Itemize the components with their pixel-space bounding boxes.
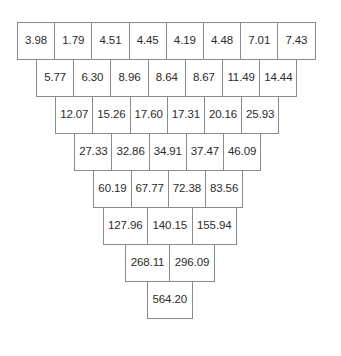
pyramid-cell: 127.96 <box>103 207 149 245</box>
pyramid-row: 3.981.794.514.454.194.487.017.43 <box>17 22 316 60</box>
pyramid-cell: 268.11 <box>125 244 171 282</box>
pyramid-cell: 4.48 <box>203 22 241 60</box>
pyramid-cell: 140.15 <box>147 207 193 245</box>
summation-pyramid: 3.981.794.514.454.194.487.017.435.776.30… <box>0 0 341 356</box>
pyramid-cell: 25.93 <box>241 96 279 134</box>
pyramid-cell: 46.09 <box>223 133 261 171</box>
pyramid-cell: 11.49 <box>222 59 260 97</box>
pyramid-cell: 17.31 <box>167 96 205 134</box>
pyramid-cell: 8.64 <box>148 59 186 97</box>
pyramid-cell: 8.96 <box>110 59 148 97</box>
pyramid-cell: 8.67 <box>185 59 223 97</box>
pyramid-row: 27.3332.8634.9137.4746.09 <box>74 133 261 171</box>
pyramid-row: 564.20 <box>147 281 193 319</box>
pyramid-cell: 72.38 <box>168 170 206 208</box>
pyramid-cell: 6.30 <box>73 59 111 97</box>
pyramid-cell: 3.98 <box>17 22 55 60</box>
pyramid-row: 5.776.308.968.648.6711.4914.44 <box>36 59 297 97</box>
pyramid-cell: 5.77 <box>36 59 74 97</box>
pyramid-cell: 32.86 <box>111 133 149 171</box>
pyramid-cell: 4.51 <box>91 22 129 60</box>
pyramid-cell: 37.47 <box>186 133 224 171</box>
pyramid-row: 60.1967.7772.3883.56 <box>93 170 243 208</box>
pyramid-cell: 14.44 <box>259 59 297 97</box>
pyramid-row: 268.11296.09 <box>125 244 215 282</box>
pyramid-cell: 155.94 <box>192 207 238 245</box>
pyramid-cell: 7.43 <box>277 22 315 60</box>
pyramid-cell: 60.19 <box>93 170 131 208</box>
pyramid-cell: 83.56 <box>205 170 243 208</box>
pyramid-cell: 1.79 <box>54 22 92 60</box>
pyramid-cell: 17.60 <box>130 96 168 134</box>
pyramid-row: 127.96140.15155.94 <box>103 207 238 245</box>
pyramid-cell: 4.19 <box>166 22 204 60</box>
pyramid-cell: 15.26 <box>92 96 130 134</box>
pyramid-cell: 296.09 <box>169 244 215 282</box>
pyramid-cell: 27.33 <box>74 133 112 171</box>
pyramid-cell: 34.91 <box>149 133 187 171</box>
pyramid-cell: 67.77 <box>131 170 169 208</box>
pyramid-row: 12.0715.2617.6017.3120.1625.93 <box>55 96 279 134</box>
pyramid-cell: 12.07 <box>55 96 93 134</box>
pyramid-cell: 20.16 <box>204 96 242 134</box>
pyramid-cell: 4.45 <box>129 22 167 60</box>
pyramid-cell: 564.20 <box>147 281 193 319</box>
pyramid-cell: 7.01 <box>240 22 278 60</box>
